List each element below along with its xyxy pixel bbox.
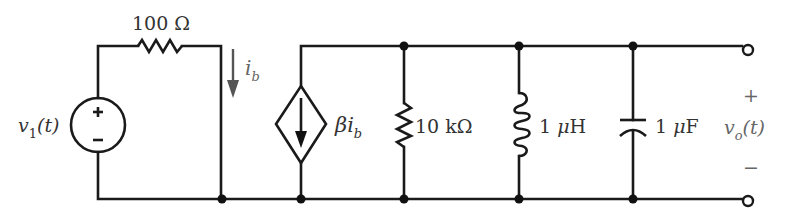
voltage-source-icon (71, 98, 125, 152)
dependent-source-label: βib (335, 115, 362, 136)
inductor-icon (515, 93, 530, 156)
inductor-label: 1 μH (539, 117, 586, 136)
inductor-mu: μ (557, 115, 569, 137)
circuit-diagram: 100 Ω v1(t) ib βib 10 kΩ 1 μH 1 μF + vo(… (0, 0, 807, 218)
shunt-resistor-value: 10 kΩ (415, 115, 472, 137)
source-plus-sign: + (743, 86, 759, 105)
shunt-resistor-label: 10 kΩ (415, 117, 472, 136)
resistor-10k-icon (397, 103, 411, 147)
series-resistor-label: 100 Ω (132, 14, 190, 33)
dep-symbol: i (347, 113, 354, 137)
capacitor-unit: F (686, 115, 699, 137)
output-terminal-negative (743, 196, 753, 206)
output-name: v (724, 116, 735, 138)
source-name: v (18, 114, 29, 136)
source-label: v1(t) (18, 116, 59, 135)
output-arg: (t) (743, 116, 765, 138)
source-subscript: 1 (29, 126, 37, 141)
output-label: vo(t) (724, 118, 765, 137)
output-subscript: o (735, 128, 743, 143)
source-arg: (t) (37, 114, 59, 136)
resistor-100-ohm-icon (138, 40, 182, 52)
current-label: ib (245, 58, 260, 78)
output-minus: − (743, 156, 759, 178)
current-subscript: b (251, 69, 259, 84)
dep-coefficient: β (335, 113, 347, 137)
series-resistor-value: 100 Ω (132, 12, 190, 34)
output-plus: + (743, 84, 759, 106)
input-loop-wires (98, 46, 221, 199)
capacitor-mu: μ (673, 115, 685, 137)
circuit-schematic (0, 0, 807, 218)
output-minus-sign: − (743, 158, 759, 177)
capacitor-num: 1 (655, 115, 673, 137)
capacitor-label: 1 μF (655, 117, 699, 136)
dep-subscript: b (354, 126, 362, 141)
inductor-num: 1 (539, 115, 557, 137)
current-arrow-icon (227, 49, 239, 98)
dependent-current-source-icon (276, 86, 326, 163)
inductor-unit: H (570, 115, 587, 137)
output-terminal-positive (743, 45, 753, 55)
